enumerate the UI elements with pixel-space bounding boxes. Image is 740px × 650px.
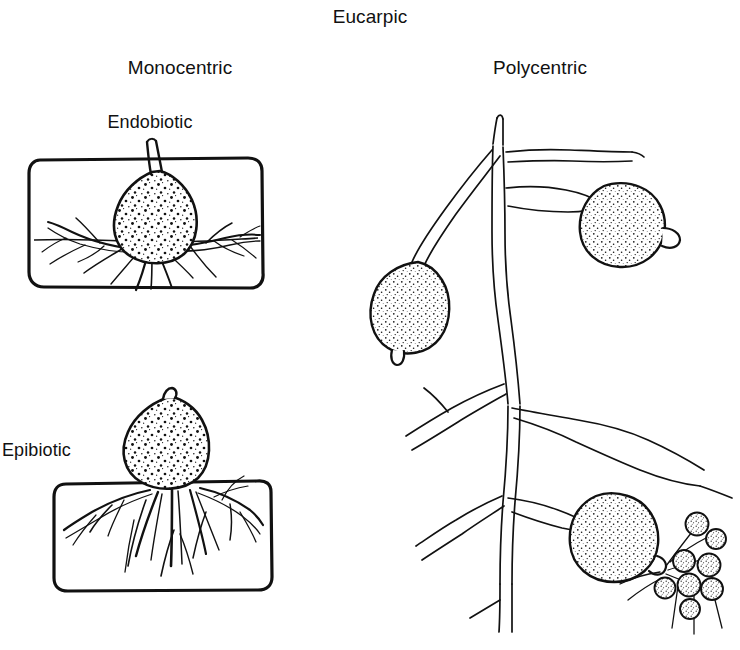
endobiotic-panel xyxy=(29,139,263,290)
discharge-papilla xyxy=(391,350,404,365)
column-label-monocentric: Monocentric xyxy=(0,57,360,79)
host-cell-boundary xyxy=(54,481,272,591)
page-title: Eucarpic xyxy=(0,6,740,28)
row-label-epibiotic: Epibiotic xyxy=(2,440,114,461)
row-label-endobiotic: Endobiotic xyxy=(0,112,300,133)
eucarpic-thallus-diagram xyxy=(0,0,740,650)
column-label-polycentric: Polycentric xyxy=(380,57,700,79)
